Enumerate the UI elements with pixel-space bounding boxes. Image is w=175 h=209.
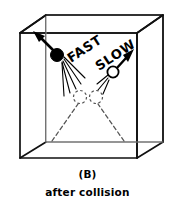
cube-left-depth-edge xyxy=(20,15,46,33)
slow-light-ball xyxy=(107,66,118,77)
panel-label: (B) xyxy=(0,168,175,180)
ghost-ball-right xyxy=(90,91,103,104)
figure-caption: after collision xyxy=(0,186,175,198)
slow-ball-speed-lines xyxy=(97,75,109,94)
fast-dark-ball xyxy=(51,49,64,62)
incoming-path-right xyxy=(98,104,124,141)
cube-bottom-left-depth-edge xyxy=(20,142,46,158)
figure-after-collision: FAST SLOW (B) after collision xyxy=(0,0,175,209)
incoming-path-left xyxy=(52,104,78,141)
cube-bottom-right-depth-edge xyxy=(137,142,163,158)
cube-right-depth-edge xyxy=(137,15,163,33)
incoming-trajectories xyxy=(52,104,124,141)
ghost-ball-left xyxy=(74,91,87,104)
fast-ball-group xyxy=(33,31,64,62)
ghost-balls xyxy=(74,91,103,104)
